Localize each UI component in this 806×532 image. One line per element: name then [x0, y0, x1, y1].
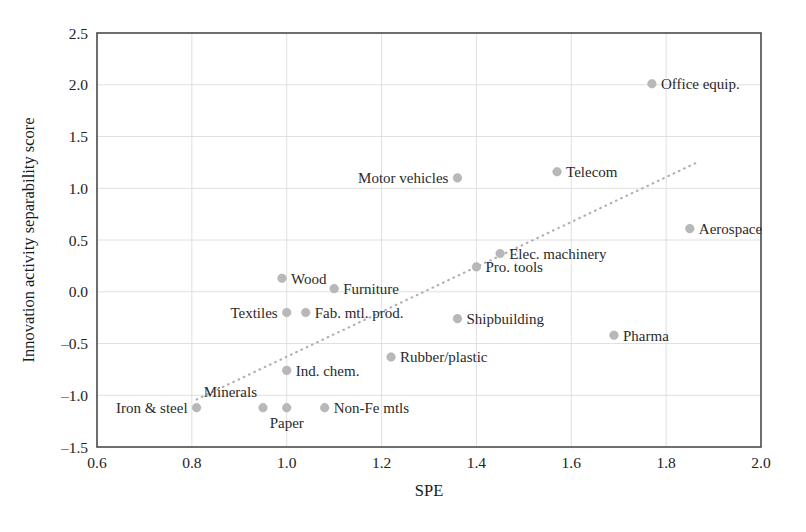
y-axis-title: Innovation activity separability score: [19, 117, 38, 362]
x-tick-label: 1.8: [656, 454, 676, 471]
data-point-label: Textiles: [230, 305, 277, 321]
data-point-label: Minerals: [204, 384, 257, 400]
data-point-marker: [387, 353, 396, 362]
data-point-label: Ind. chem.: [296, 363, 360, 379]
data-point-label: Fab. mtl. prod.: [315, 305, 404, 321]
data-point-marker: [496, 249, 505, 258]
data-point-marker: [192, 403, 201, 412]
y-tick-label: 0.0: [69, 283, 89, 300]
data-point: Office equip.: [648, 76, 740, 92]
data-point-label: Furniture: [343, 281, 399, 297]
x-axis-title: SPE: [415, 481, 443, 500]
data-point-label: Rubber/plastic: [400, 349, 488, 365]
data-point: Rubber/plastic: [387, 349, 488, 365]
x-tick-label: 1.4: [467, 454, 487, 471]
data-point-label: Non-Fe mtls: [334, 400, 410, 416]
data-point-marker: [259, 403, 268, 412]
y-tick-label: –1.5: [60, 439, 88, 456]
data-point-marker: [278, 274, 287, 283]
x-tick-label: 0.8: [182, 454, 202, 471]
y-tick-label: 1.5: [69, 128, 89, 145]
y-tick-label: –1.0: [60, 387, 88, 404]
data-point-marker: [301, 308, 310, 317]
data-point-marker: [553, 167, 562, 176]
data-point-label: Motor vehicles: [358, 170, 449, 186]
data-point-marker: [610, 331, 619, 340]
data-point-label: Shipbuilding: [466, 311, 544, 327]
data-point: Shipbuilding: [453, 311, 544, 327]
x-tick-label: 1.0: [277, 454, 297, 471]
scatter-plot-figure: 0.60.81.01.21.41.61.82.0 2.52.01.51.00.5…: [0, 0, 806, 532]
data-point-label: Aerospace: [699, 221, 763, 237]
data-point-marker: [320, 403, 329, 412]
data-point-marker: [453, 174, 462, 183]
data-point-marker: [453, 314, 462, 323]
y-tick-label: 1.0: [69, 180, 89, 197]
y-tick-label: 0.5: [69, 232, 89, 249]
y-tick-label: 2.0: [69, 76, 89, 93]
data-point: Motor vehicles: [358, 170, 462, 186]
data-point-marker: [686, 224, 695, 233]
data-point-marker: [282, 308, 291, 317]
data-point-label: Wood: [291, 271, 327, 287]
chart-canvas: 0.60.81.01.21.41.61.82.0 2.52.01.51.00.5…: [0, 0, 806, 532]
data-point-label: Iron & steel: [116, 400, 188, 416]
data-point-label: Pro. tools: [485, 259, 543, 275]
x-tick-label: 1.2: [372, 454, 391, 471]
data-point-label: Telecom: [566, 164, 618, 180]
data-point-marker: [472, 263, 481, 272]
data-point-label: Pharma: [623, 328, 669, 344]
y-tick-label: –0.5: [60, 335, 88, 352]
data-point-label: Paper: [270, 415, 304, 431]
data-point: Non-Fe mtls: [320, 400, 409, 416]
data-point-marker: [282, 403, 291, 412]
x-tick-label: 1.6: [562, 454, 582, 471]
data-point: Fab. mtl. prod.: [301, 305, 403, 321]
data-point-marker: [648, 79, 657, 88]
data-point-marker: [282, 366, 291, 375]
data-point-label: Office equip.: [661, 76, 740, 92]
y-tick-label: 2.5: [69, 25, 89, 42]
x-tick-label: 2.0: [751, 454, 771, 471]
x-tick-label: 0.6: [87, 454, 107, 471]
data-point-marker: [330, 284, 339, 293]
